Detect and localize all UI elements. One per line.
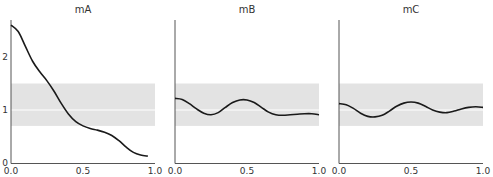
x-tick-label: 0.5: [76, 166, 90, 176]
panel-title: mB: [239, 4, 256, 15]
x-tick-label: 1.0: [476, 166, 491, 176]
reference-band: [339, 84, 483, 126]
x-tick-label: 0.0: [168, 166, 183, 176]
panel-mC: mC0.00.51.0: [332, 4, 491, 176]
panel-title: mC: [403, 4, 420, 15]
panel-title: mA: [75, 4, 92, 15]
y-tick-label: 0: [2, 158, 8, 168]
figure: mA0.00.51.0012mB0.00.51.0mC0.00.51.0: [0, 0, 493, 177]
y-tick-label: 2: [2, 52, 8, 62]
x-tick-label: 0.0: [332, 166, 347, 176]
panel-mA: mA0.00.51.0012: [2, 4, 162, 176]
y-tick-label: 1: [2, 105, 8, 115]
reference-band: [175, 84, 319, 126]
x-tick-label: 0.5: [240, 166, 254, 176]
panel-mB: mB0.00.51.0: [168, 4, 327, 176]
x-tick-label: 1.0: [148, 166, 163, 176]
x-tick-label: 0.5: [404, 166, 418, 176]
x-tick-label: 1.0: [312, 166, 327, 176]
reference-band: [11, 84, 155, 126]
